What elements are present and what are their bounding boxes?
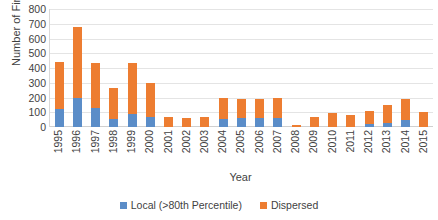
x-tick-label: 2003: [198, 130, 209, 153]
y-tick-label: 100: [18, 107, 46, 117]
bar-segment-local[interactable]: [255, 118, 264, 127]
x-tick-label: 2006: [253, 130, 264, 153]
stacked-bar[interactable]: [292, 125, 301, 127]
bar-segment-dispersed[interactable]: [346, 115, 355, 127]
bar-segment-local[interactable]: [128, 114, 137, 127]
y-tick-label: 200: [18, 93, 46, 103]
bar-column[interactable]: [324, 9, 342, 127]
bar-column[interactable]: [251, 9, 269, 127]
bar-segment-dispersed[interactable]: [164, 117, 173, 127]
bar-segment-dispersed[interactable]: [55, 62, 64, 108]
stacked-bar[interactable]: [128, 63, 137, 127]
bar-column[interactable]: [196, 9, 214, 127]
bar-segment-dispersed[interactable]: [237, 99, 246, 118]
y-tick-label: 300: [18, 78, 46, 88]
bar-series-container: [50, 9, 433, 127]
bar-segment-dispersed[interactable]: [91, 63, 100, 108]
stacked-bar[interactable]: [365, 111, 374, 127]
x-tick-label: 2005: [235, 130, 246, 153]
bar-column[interactable]: [232, 9, 250, 127]
bar-segment-dispersed[interactable]: [128, 63, 137, 115]
bar-column[interactable]: [214, 9, 232, 127]
bar-column[interactable]: [105, 9, 123, 127]
bar-column[interactable]: [86, 9, 104, 127]
bar-segment-dispersed[interactable]: [200, 117, 209, 127]
bar-segment-dispersed[interactable]: [219, 98, 228, 119]
bar-segment-dispersed[interactable]: [182, 118, 191, 127]
bar-segment-dispersed[interactable]: [328, 113, 337, 127]
bar-segment-dispersed[interactable]: [383, 105, 392, 123]
x-tick-label: 2014: [399, 130, 410, 153]
stacked-bar[interactable]: [419, 112, 428, 127]
stacked-bar[interactable]: [164, 117, 173, 127]
stacked-bar[interactable]: [273, 98, 282, 127]
bar-chart: Number of Firms 800 700 600 500 400 300 …: [0, 0, 438, 220]
bar-segment-local[interactable]: [219, 119, 228, 127]
bar-segment-dispersed[interactable]: [109, 88, 118, 119]
bar-column[interactable]: [50, 9, 68, 127]
bar-column[interactable]: [287, 9, 305, 127]
bar-segment-local[interactable]: [73, 98, 82, 127]
x-tick-column: 1999: [122, 128, 140, 170]
stacked-bar[interactable]: [182, 118, 191, 127]
x-tick-column: 1995: [49, 128, 67, 170]
x-tick-column: 2009: [304, 128, 322, 170]
x-tick-column: 2001: [158, 128, 176, 170]
stacked-bar[interactable]: [219, 98, 228, 127]
bar-segment-local[interactable]: [55, 109, 64, 127]
bar-column[interactable]: [159, 9, 177, 127]
x-tick-column: 2000: [140, 128, 158, 170]
bar-column[interactable]: [123, 9, 141, 127]
x-tick-column: 2014: [395, 128, 413, 170]
plot-area: [49, 9, 433, 127]
stacked-bar[interactable]: [401, 99, 410, 127]
stacked-bar[interactable]: [55, 62, 64, 127]
x-tick-label: 2001: [162, 130, 173, 153]
bar-segment-dispersed[interactable]: [146, 83, 155, 117]
bar-column[interactable]: [141, 9, 159, 127]
bar-segment-local[interactable]: [401, 120, 410, 127]
stacked-bar[interactable]: [73, 27, 82, 127]
stacked-bar[interactable]: [146, 83, 155, 127]
stacked-bar[interactable]: [255, 99, 264, 127]
stacked-bar[interactable]: [91, 63, 100, 127]
bar-column[interactable]: [305, 9, 323, 127]
bar-segment-local[interactable]: [273, 118, 282, 127]
bar-segment-local[interactable]: [365, 124, 374, 127]
bar-segment-dispersed[interactable]: [401, 99, 410, 120]
bar-column[interactable]: [396, 9, 414, 127]
x-tick-column: 2008: [286, 128, 304, 170]
stacked-bar[interactable]: [383, 105, 392, 127]
bar-segment-local[interactable]: [146, 117, 155, 127]
bar-column[interactable]: [415, 9, 433, 127]
x-tick-label: 2000: [144, 130, 155, 153]
x-tick-column: 2004: [213, 128, 231, 170]
bar-segment-dispersed[interactable]: [310, 117, 319, 127]
stacked-bar[interactable]: [328, 113, 337, 127]
bar-column[interactable]: [269, 9, 287, 127]
bar-column[interactable]: [342, 9, 360, 127]
bar-segment-local[interactable]: [237, 118, 246, 127]
stacked-bar[interactable]: [346, 115, 355, 127]
bar-segment-dispersed[interactable]: [419, 112, 428, 127]
bar-segment-dispersed[interactable]: [273, 98, 282, 118]
stacked-bar[interactable]: [200, 117, 209, 127]
bar-segment-local[interactable]: [109, 119, 118, 127]
x-tick-label: 1998: [107, 130, 118, 153]
stacked-bar[interactable]: [237, 99, 246, 127]
bar-segment-local[interactable]: [91, 108, 100, 127]
bar-column[interactable]: [360, 9, 378, 127]
y-tick-label: 0: [18, 122, 46, 132]
bar-column[interactable]: [178, 9, 196, 127]
bar-column[interactable]: [378, 9, 396, 127]
x-tick-label: 2011: [344, 130, 355, 153]
bar-segment-dispersed[interactable]: [73, 27, 82, 98]
bar-segment-dispersed[interactable]: [365, 111, 374, 124]
stacked-bar[interactable]: [109, 88, 118, 127]
bar-segment-local[interactable]: [383, 123, 392, 127]
x-tick-column: 2013: [377, 128, 395, 170]
bar-segment-dispersed[interactable]: [255, 99, 264, 118]
bar-column[interactable]: [68, 9, 86, 127]
stacked-bar[interactable]: [310, 117, 319, 127]
bar-segment-dispersed[interactable]: [292, 125, 301, 127]
